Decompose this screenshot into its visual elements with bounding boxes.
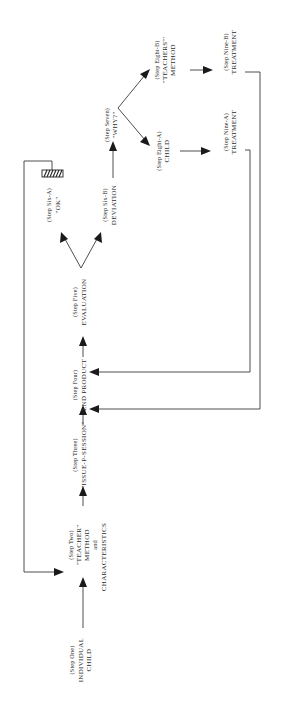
node-step3: (Step Three) "ISSUE-P-SESSION": [71, 421, 88, 488]
arrowhead-icon: [203, 66, 213, 74]
edge-step5-step6b: [81, 239, 97, 268]
arrowhead-icon: [140, 69, 150, 79]
node-title: "WHY?": [111, 111, 119, 138]
step-label: (Step Nine-A): [222, 113, 230, 151]
node-title: CHILD: [85, 649, 93, 672]
arrowhead-icon: [201, 147, 211, 155]
node-title: "ISSUE-P-SESSION": [80, 421, 88, 488]
node-step6a: (Step Six-A) "OK": [45, 188, 62, 222]
step-label: (Step Three): [71, 438, 79, 471]
node-step6b: (Step Six-B) DEVIATION: [101, 185, 118, 225]
node-title: END PRODUCT: [80, 359, 88, 412]
node-title: CHARACTERISTICS: [100, 523, 108, 591]
node-title: "TEACHERS'": [161, 37, 169, 83]
node-title: METHOD: [83, 529, 91, 561]
flow-diagram: (Step One) INDIVIDUAL CHILD (Step Two) "…: [0, 0, 281, 714]
edge-step7-step8b: [118, 75, 145, 108]
step-label: (Step Five): [71, 287, 79, 317]
step-label: (Step Eight-B): [153, 40, 161, 79]
node-title: INDIVIDUAL: [77, 638, 85, 683]
node-step4: (Step Four) END PRODUCT: [71, 359, 88, 412]
step-label: (Step Nine-B): [222, 33, 230, 70]
step-label: (Step Two): [67, 530, 75, 559]
node-title: "TEACHER": [75, 525, 83, 566]
step-label: (Step Six-B): [101, 188, 109, 222]
node-title: TREATMENT: [230, 109, 238, 154]
edge-step5-step6a: [65, 239, 81, 268]
node-title: TREATMENT: [230, 29, 238, 74]
arrowhead-icon: [140, 136, 150, 146]
node-title: DEVIATION: [110, 185, 118, 225]
hatched-marker-icon: [42, 170, 63, 177]
arrowhead-icon: [79, 577, 87, 587]
node-step8b: (Step Eight-B) "TEACHERS'" METHOD: [153, 37, 177, 83]
step-label: (Step One): [68, 646, 76, 675]
node-title: CHILD: [163, 140, 171, 163]
arrowhead-icon: [109, 141, 117, 151]
arrowhead-icon: [79, 336, 87, 346]
step-label: (Step Four): [71, 370, 79, 401]
node-step8a: (Step Eight-A) CHILD: [155, 131, 171, 170]
node-title: METHOD: [169, 44, 177, 76]
edge-step6a-step2-feedback: [24, 161, 57, 572]
node-title: EVALUATION: [80, 279, 88, 326]
step-label: (Step Eight-A): [155, 131, 163, 170]
arrowhead-icon: [54, 568, 64, 576]
edge-step9a-step4-feedback: [96, 150, 250, 372]
node-step5: (Step Five) EVALUATION: [71, 279, 88, 326]
node-title: "OK": [54, 196, 62, 213]
node-step9b: (Step Nine-B) TREATMENT: [222, 29, 238, 74]
arrowhead-icon: [89, 405, 99, 413]
node-step9a: (Step Nine-A) TREATMENT: [222, 109, 238, 154]
step-label: (Step Seven): [103, 108, 111, 142]
node-step1: (Step One) INDIVIDUAL CHILD: [68, 638, 93, 683]
node-step7: (Step Seven) "WHY?": [103, 108, 119, 142]
edge-step7-step8a: [118, 108, 145, 140]
node-step2: (Step Two) "TEACHER" METHOD and CHARACTE…: [67, 523, 108, 591]
node-title: and: [91, 540, 98, 550]
arrowhead-icon: [89, 368, 99, 376]
step-label: (Step Six-A): [45, 188, 53, 222]
